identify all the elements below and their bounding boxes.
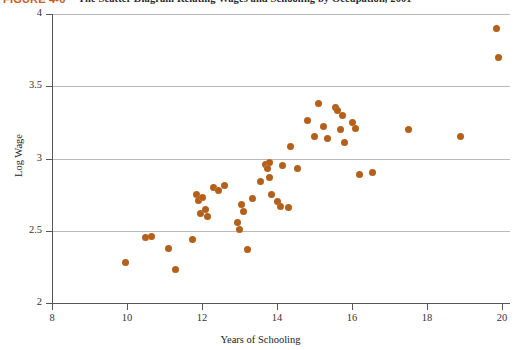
scatter-point	[315, 100, 322, 107]
scatter-point	[268, 191, 275, 198]
scatter-point	[352, 125, 359, 132]
x-tick-10	[127, 303, 128, 310]
y-tick-label-3: 3	[6, 152, 42, 163]
scatter-point	[148, 233, 155, 240]
scatter-point	[457, 133, 464, 140]
scatter-point	[257, 178, 264, 185]
x-tick-8	[52, 303, 53, 310]
scatter-point	[287, 143, 294, 150]
x-tick-18	[427, 303, 428, 310]
scatter-point	[122, 259, 129, 266]
scatter-point	[356, 171, 363, 178]
scatter-plot-area	[52, 14, 510, 303]
scatter-point	[337, 126, 344, 133]
scatter-point	[369, 169, 376, 176]
scatter-point	[238, 201, 245, 208]
scatter-point	[320, 123, 327, 130]
scatter-point	[202, 206, 209, 213]
x-tick-label-10: 10	[109, 312, 145, 323]
x-tick-label-20: 20	[484, 312, 520, 323]
scatter-point	[240, 208, 247, 215]
x-tick-12	[202, 303, 203, 310]
scatter-point	[204, 213, 211, 220]
scatter-point	[493, 25, 500, 32]
x-tick-14	[277, 303, 278, 310]
scatter-point	[234, 219, 241, 226]
x-tick-label-12: 12	[184, 312, 220, 323]
scatter-point	[199, 194, 206, 201]
scatter-point	[189, 236, 196, 243]
x-tick-20	[502, 303, 503, 310]
scatter-point	[249, 195, 256, 202]
figure-caption-text: The Scatter Diagram Relating Wages and S…	[78, 0, 412, 4]
scatter-point	[221, 182, 228, 189]
scatter-point	[244, 246, 251, 253]
scatter-point	[311, 133, 318, 140]
x-axis-title: Years of Schooling	[0, 334, 521, 345]
x-tick-label-14: 14	[259, 312, 295, 323]
y-tick-label-3.5: 3.5	[6, 79, 42, 90]
scatter-point	[341, 139, 348, 146]
figure-number: FIGURE 4-6	[3, 0, 66, 5]
scatter-point	[285, 204, 292, 211]
scatter-point	[294, 165, 301, 172]
y-tick-label-2: 2	[6, 296, 42, 307]
y-tick-label-4: 4	[6, 7, 42, 18]
scatter-point	[304, 117, 311, 124]
scatter-point	[266, 174, 273, 181]
scatter-point	[264, 165, 271, 172]
x-tick-label-18: 18	[409, 312, 445, 323]
scatter-point	[277, 203, 284, 210]
y-axis-title: Log Wage	[13, 121, 24, 191]
scatter-point	[405, 126, 412, 133]
scatter-point	[324, 135, 331, 142]
scatter-point	[495, 54, 502, 61]
x-tick-16	[352, 303, 353, 310]
scatter-point	[236, 226, 243, 233]
scatter-point	[172, 266, 179, 273]
x-tick-label-8: 8	[34, 312, 70, 323]
scatter-point	[339, 112, 346, 119]
scatter-point	[266, 159, 273, 166]
scatter-point	[279, 162, 286, 169]
y-tick-label-2.5: 2.5	[6, 224, 42, 235]
scatter-point	[165, 245, 172, 252]
x-axis-line	[52, 303, 510, 304]
figure-root: FIGURE 4-6 The Scatter Diagram Relating …	[0, 0, 521, 350]
x-tick-label-16: 16	[334, 312, 370, 323]
figure-caption: FIGURE 4-6 The Scatter Diagram Relating …	[0, 0, 521, 8]
